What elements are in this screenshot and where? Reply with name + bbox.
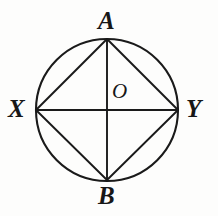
chord-y-b [107,110,178,180]
chord-b-x [36,110,107,180]
point-label-y: Y [186,96,201,121]
point-label-x: X [8,96,25,121]
point-label-b: B [98,183,115,208]
point-label-a: A [98,8,115,33]
geometry-figure: A X Y B O [0,0,218,216]
point-label-o: O [112,81,127,102]
